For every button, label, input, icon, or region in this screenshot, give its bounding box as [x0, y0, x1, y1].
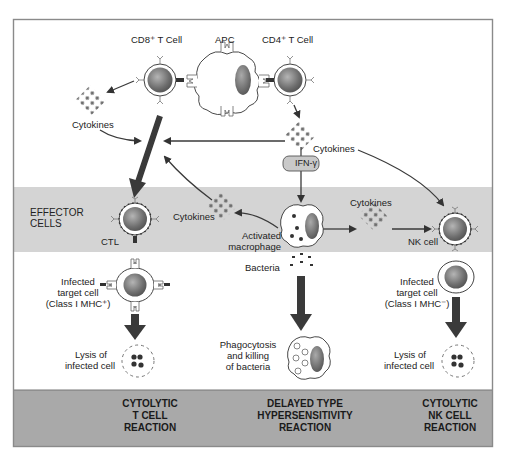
- right-target-label-line1: Infected: [384, 276, 450, 287]
- diagram-graphics: [0, 0, 506, 455]
- activated-macrophage-label-line2: macrophage: [221, 241, 281, 252]
- reaction-title-cytolytic-nk-cell: CYTOLYTIC NK CELL REACTION: [405, 398, 495, 434]
- phagocytosing-macrophage-icon: [288, 337, 331, 380]
- cytokines-label-left-top: Cytokines: [72, 119, 114, 130]
- effector-cells-label-line2: CELLS: [30, 218, 62, 229]
- right-target-label-line2: target cell: [384, 287, 450, 298]
- cd8-t-cell-label: CD8⁺ T Cell: [131, 34, 182, 45]
- thick-down-arrow-middle: [290, 276, 312, 331]
- right-lysis-label-line1: Lysis of: [377, 349, 443, 360]
- reaction-title-cytolytic-t-cell: CYTOLYTIC T CELL REACTION: [95, 398, 205, 434]
- apc-label: APC: [215, 34, 235, 45]
- reaction-line: T CELL: [95, 410, 205, 422]
- reaction-line: REACTION: [240, 422, 370, 434]
- cytokines-label-middle-left: Cytokines: [173, 211, 215, 222]
- activated-macrophage-icon: [281, 205, 324, 248]
- phagocytosis-label-line3: of bacteria: [213, 361, 283, 372]
- reaction-line: REACTION: [95, 422, 205, 434]
- cd8-t-cell-icon: [136, 56, 184, 104]
- thick-arrow-to-ctl: [129, 116, 160, 198]
- reaction-line: DELAYED TYPE: [240, 398, 370, 410]
- apc-icon: [187, 42, 269, 116]
- ctl-label: CTL: [101, 236, 119, 247]
- right-target-label-line3: (Class I MHC⁻): [378, 298, 456, 309]
- thick-down-arrow-left: [124, 314, 146, 340]
- bacteria-label: Bacteria: [245, 262, 280, 273]
- effector-cells-label-line1: EFFECTOR: [30, 207, 84, 218]
- bacteria-icon: [290, 253, 313, 266]
- reaction-title-delayed-type-hypersensitivity: DELAYED TYPE HYPERSENSITIVITY REACTION: [240, 398, 370, 434]
- right-lysis-label-line2: infected cell: [373, 360, 445, 371]
- ifn-gamma-label: IFN-γ: [295, 158, 307, 169]
- reaction-line: HYPERSENSITIVITY: [240, 410, 370, 422]
- nk-cell-label: NK cell: [408, 236, 438, 247]
- cytokine-cluster-icon: [285, 121, 315, 151]
- left-target-label-line2: target cell: [44, 287, 112, 298]
- left-target-label-line3: (Class I MHC⁺): [38, 298, 118, 309]
- reaction-line: REACTION: [405, 422, 495, 434]
- left-lysis-label-line1: Lysis of: [60, 349, 122, 360]
- immune-effector-diagram: CD8⁺ T Cell APC CD4⁺ T Cell Cytokines Cy…: [0, 0, 506, 455]
- reaction-line: CYTOLYTIC: [405, 398, 495, 410]
- cytokines-label-middle-right: Cytokines: [350, 197, 392, 208]
- cd4-t-cell-icon: [266, 56, 314, 104]
- activated-macrophage-label-line1: Activated: [221, 230, 281, 241]
- phagocytosis-label-line1: Phagocytosis: [213, 339, 283, 350]
- lysed-cell-icon: [122, 345, 154, 377]
- reaction-line: NK CELL: [405, 410, 495, 422]
- left-target-label-line1: Infected: [44, 276, 112, 287]
- cytokines-label-right-top: Cytokines: [313, 143, 355, 154]
- lysed-cell-icon: [442, 345, 474, 377]
- cytokine-cluster-icon: [76, 85, 107, 115]
- phagocytosis-label-line2: and killing: [213, 350, 283, 361]
- reaction-line: CYTOLYTIC: [95, 398, 205, 410]
- left-lysis-label-line2: infected cell: [54, 360, 126, 371]
- cd4-t-cell-label: CD4⁺ T Cell: [262, 34, 313, 45]
